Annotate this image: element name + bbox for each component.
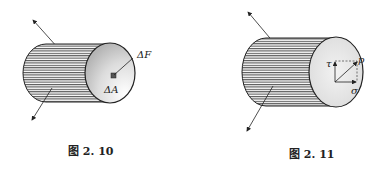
label-tau: τ (326, 58, 332, 69)
label-p: p (358, 54, 365, 65)
figure-2-11: τ p σ (242, 12, 365, 131)
label-delta-a: ΔA (103, 84, 118, 95)
cross-section-face (309, 37, 363, 107)
figure-2-10: ΔF ΔA (23, 20, 152, 120)
label-delta-f: ΔF (136, 49, 152, 60)
label-sigma: σ (351, 85, 359, 96)
caption-figure-2-10: 图 2. 10 (68, 142, 113, 158)
caption-figure-2-11: 图 2. 11 (289, 145, 334, 161)
